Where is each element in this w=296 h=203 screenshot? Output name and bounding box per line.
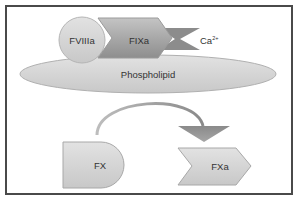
fixa-label: FIXa	[129, 35, 150, 46]
diagram-canvas: FVIIIa FIXa Ca2+ Phospholipid FX FXa	[0, 0, 296, 203]
phospholipid-label: Phospholipid	[121, 69, 175, 80]
fxa-label: FXa	[211, 161, 229, 172]
fviiia-label: FVIIIa	[69, 35, 95, 46]
fx-label: FX	[94, 160, 107, 171]
